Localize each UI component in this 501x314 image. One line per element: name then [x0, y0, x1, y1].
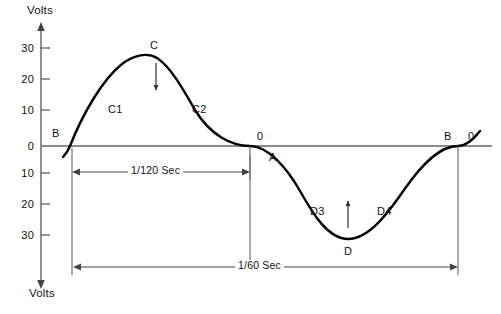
y-tick-label-neg-10: 10 [19, 168, 34, 179]
sine-wave-curve [63, 55, 480, 239]
curve-label-zero-right: 0 [468, 131, 474, 142]
curve-label-d4: D4 [377, 206, 391, 217]
y-tick-label-20: 20 [19, 74, 34, 85]
curve-label-b-right: B [444, 131, 452, 142]
y-axis-title-top: Volts [27, 5, 53, 17]
curve-label-d: D [344, 246, 352, 257]
curve-label-d3: D3 [310, 206, 324, 217]
y-tick-label-0: 0 [19, 141, 34, 152]
y-tick-label-neg-20: 20 [19, 199, 34, 210]
dimension-label-full-cycle: 1/60 Sec [235, 260, 284, 271]
curve-label-a: A [269, 152, 277, 163]
y-axis-ticks [41, 48, 50, 235]
y-tick-label-neg-30: 30 [19, 230, 34, 241]
y-tick-label-10: 10 [19, 105, 34, 116]
curve-label-c2: C2 [192, 104, 206, 115]
y-axis [37, 22, 45, 289]
y-axis-title-bottom: Volts [29, 288, 55, 300]
curve-label-c: C [150, 40, 158, 51]
curve-label-b-left: B [52, 128, 60, 139]
curve-label-c1: C1 [108, 104, 122, 115]
dimension-label-half-cycle: 1/120 Sec [128, 165, 183, 176]
y-tick-label-30: 30 [19, 43, 34, 54]
y-axis-arrow-up [37, 22, 45, 31]
curve-label-zero-mid: 0 [257, 131, 263, 142]
